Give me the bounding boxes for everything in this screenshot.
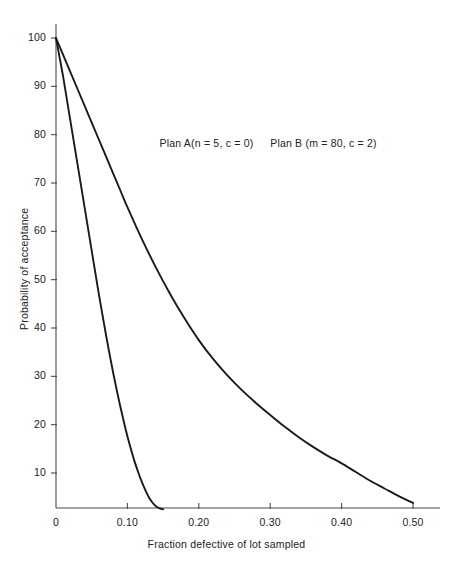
y-axis-title: Probability of acceptance (18, 208, 30, 330)
y-tick-label: 70 (14, 176, 46, 188)
series-curves (56, 38, 413, 509)
y-tick-label: 30 (14, 369, 46, 381)
x-axis-title: Fraction defective of lot sampled (0, 538, 453, 550)
x-tick-label: 0.40 (317, 516, 367, 528)
series-curve-plan-b (56, 38, 413, 503)
y-tick-label: 90 (14, 79, 46, 91)
x-tick-label: 0.10 (102, 516, 152, 528)
y-tick-label: 20 (14, 418, 46, 430)
series-curve-plan-a (56, 38, 163, 509)
x-tick-label: 0.50 (388, 516, 438, 528)
plot-canvas (0, 0, 453, 568)
series-annotation-plan-a: Plan A(n = 5, c = 0) (160, 137, 254, 149)
oc-curve-figure: 102030405060708090100 00.100.200.300.400… (0, 0, 453, 568)
y-tick-label: 10 (14, 466, 46, 478)
x-tick-label: 0 (31, 516, 81, 528)
x-tick-label: 0.30 (245, 516, 295, 528)
axes-group (56, 24, 440, 508)
series-annotation-plan-b: Plan B (m = 80, c = 2) (270, 137, 377, 149)
y-tick-label: 100 (14, 31, 46, 43)
x-tick-label: 0.20 (174, 516, 224, 528)
y-tick-label: 80 (14, 128, 46, 140)
